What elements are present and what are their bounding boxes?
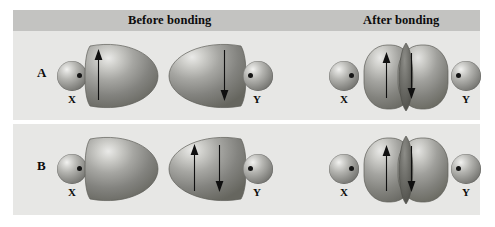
atom-label-x: X [68,186,76,198]
atom-label-y: Y [462,93,470,105]
spin-arrow-down [215,144,224,192]
header-band: Before bonding After bonding [13,10,480,31]
atom-sphere-x [329,154,359,184]
orbital-bonding-figure: Before bonding After bonding A X [0,0,495,227]
row-b-after-group: X [308,124,480,213]
electron-dot [77,73,82,78]
spin-arrow-down [407,145,416,192]
atom-sphere-y [243,154,273,184]
row-a: A X [13,31,480,120]
orbital-lobe-left [167,42,247,110]
electron-dot [77,166,82,171]
spin-arrow-up [382,52,391,99]
figure-panel: Before bonding After bonding A X [13,10,480,215]
atom-label-x: X [340,186,348,198]
row-b-before-right-group: Y [163,124,293,213]
atom-label-x: X [340,93,348,105]
row-a-before-right-group: Y [163,31,293,120]
spin-arrow-up [190,144,199,192]
spin-arrow-down [220,49,229,101]
atom-sphere-y [243,61,273,91]
atom-sphere-x [57,154,87,184]
row-label-a: A [37,65,46,81]
electron-dot [456,73,461,78]
row-a-before-left-group: X [53,31,173,120]
header-before-bonding: Before bonding [128,13,211,28]
orbital-lobe-right [84,135,159,203]
atom-label-y: Y [253,186,261,198]
electron-dot [349,73,354,78]
atom-sphere-y [451,61,481,91]
atom-label-y: Y [462,186,470,198]
row-b-before-left-group: X [53,124,173,213]
row-a-after-group: X [308,31,480,120]
spin-arrow-up [94,49,103,101]
header-after-bonding: After bonding [363,13,439,28]
overlapped-orbitals [363,134,449,206]
electron-dot [248,73,253,78]
spin-arrow-up [382,145,391,192]
atom-sphere-x [329,61,359,91]
electron-dot [349,166,354,171]
overlapped-orbitals [363,41,449,113]
atom-label-y: Y [253,93,261,105]
atom-sphere-x [57,61,87,91]
electron-dot [456,166,461,171]
row-b: B X [13,124,480,213]
atom-sphere-y [451,154,481,184]
row-label-b: B [37,158,46,174]
atom-label-x: X [68,93,76,105]
orbital-lobe-left [167,135,247,203]
spin-arrow-down [407,52,416,99]
electron-dot [248,166,253,171]
